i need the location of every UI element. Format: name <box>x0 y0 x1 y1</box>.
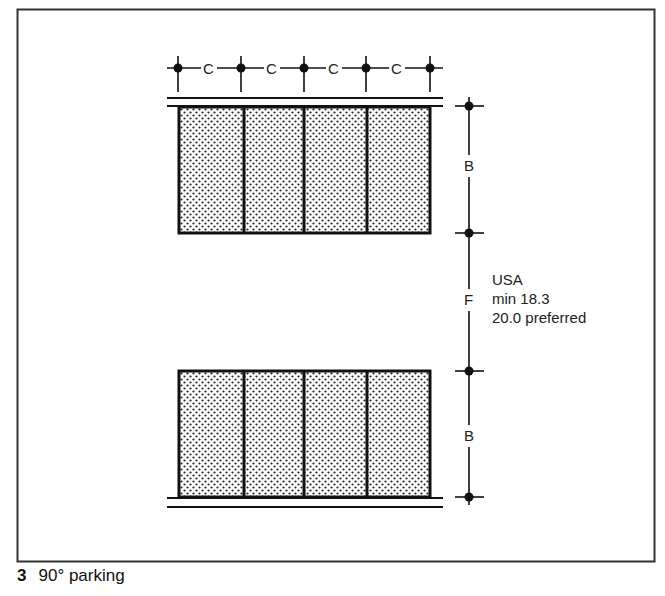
svg-text:20.0 preferred: 20.0 preferred <box>492 309 586 326</box>
top-curb <box>167 98 443 106</box>
label-f: F <box>464 291 473 308</box>
label-b-bottom: B <box>464 427 474 444</box>
figure-caption: 390° parking <box>17 566 125 586</box>
parking-diagram: C C C C B <box>0 0 665 596</box>
svg-text:C: C <box>203 60 214 77</box>
bottom-curb <box>167 498 443 507</box>
svg-text:USA: USA <box>492 271 523 288</box>
svg-text:C: C <box>391 60 402 77</box>
caption-text: 90° parking <box>38 566 124 585</box>
figure-number: 3 <box>17 566 26 585</box>
label-b-top: B <box>464 157 474 174</box>
svg-text:C: C <box>266 60 277 77</box>
svg-text:min 18.3: min 18.3 <box>492 290 550 307</box>
top-stall-row <box>179 107 430 233</box>
aisle-note: USA min 18.3 20.0 preferred <box>492 271 586 326</box>
svg-text:C: C <box>328 60 339 77</box>
bottom-stall-row <box>179 371 430 497</box>
